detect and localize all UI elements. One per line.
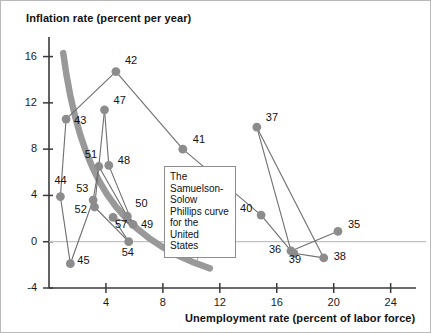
data-point-marker[interactable] — [112, 67, 121, 76]
phillips-curve-figure: Inflation rate (percent per year) Unempl… — [0, 0, 431, 333]
data-point-marker[interactable] — [334, 227, 343, 236]
data-point-label: 40 — [240, 202, 252, 214]
data-point-label: 39 — [289, 253, 301, 265]
data-point-marker[interactable] — [319, 254, 328, 263]
connector-line — [99, 110, 105, 167]
data-point-label: 49 — [141, 218, 153, 230]
data-point-label: 44 — [54, 174, 66, 186]
connector-line — [257, 127, 291, 251]
connector-line — [105, 110, 109, 166]
data-point-marker[interactable] — [62, 115, 71, 124]
data-point-label: 54 — [122, 246, 134, 258]
y-tick-label: 12 — [15, 96, 37, 108]
data-point-label: 37 — [266, 111, 278, 123]
x-tick-label: 24 — [378, 296, 404, 308]
data-point-label: 48 — [118, 154, 130, 166]
y-tick-label: 16 — [15, 50, 37, 62]
connector-line — [60, 197, 70, 264]
data-point-label: 36 — [269, 243, 281, 255]
data-point-marker[interactable] — [56, 192, 65, 201]
data-point-label: 43 — [74, 114, 86, 126]
connector-line — [257, 127, 324, 258]
data-point-marker[interactable] — [89, 196, 98, 205]
annotation-callout: The Samuelson-Solow Phillips curve for t… — [164, 166, 236, 258]
data-point-label: 50 — [135, 197, 147, 209]
x-tick-label: 8 — [150, 296, 176, 308]
data-point-label: 53 — [76, 182, 88, 194]
data-point-marker[interactable] — [104, 161, 113, 170]
data-point-label: 38 — [334, 250, 346, 262]
data-point-label: 52 — [75, 203, 87, 215]
x-tick-label: 4 — [93, 296, 119, 308]
y-tick-label: 8 — [15, 142, 37, 154]
data-point-marker[interactable] — [252, 123, 261, 132]
x-tick-label: 16 — [264, 296, 290, 308]
data-point-label: 41 — [193, 133, 205, 145]
data-point-marker[interactable] — [129, 220, 138, 229]
y-tick-label: 0 — [15, 235, 37, 247]
data-point-label: 51 — [85, 148, 97, 160]
y-tick-label: 4 — [15, 188, 37, 200]
data-point-label: 57 — [115, 218, 127, 230]
data-point-marker[interactable] — [257, 211, 266, 220]
data-point-marker[interactable] — [100, 105, 109, 114]
x-tick-label: 12 — [207, 296, 233, 308]
x-tick-label: 20 — [321, 296, 347, 308]
data-point-label: 42 — [125, 54, 137, 66]
data-point-label: 47 — [114, 94, 126, 106]
data-point-label: 45 — [77, 254, 89, 266]
data-point-label: 35 — [348, 218, 360, 230]
data-point-marker[interactable] — [94, 162, 103, 171]
data-point-marker[interactable] — [66, 259, 75, 268]
y-tick-label: -4 — [15, 281, 37, 293]
connector-line — [116, 72, 183, 150]
data-point-marker[interactable] — [178, 145, 187, 154]
